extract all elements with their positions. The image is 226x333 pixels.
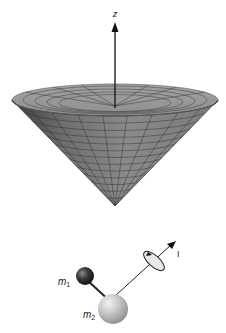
z-axis-arrowhead-icon bbox=[112, 22, 119, 32]
mass-1-sphere bbox=[76, 267, 94, 285]
mass-1-label: m1 bbox=[58, 276, 70, 288]
diatomic-molecule: I m1 m2 bbox=[58, 241, 180, 324]
cone-and-molecule-diagram: z I m1 m2 bbox=[0, 0, 226, 333]
mass-2-sphere bbox=[98, 294, 128, 324]
mass-2-label: m2 bbox=[83, 309, 95, 321]
angular-momentum-label: I bbox=[177, 249, 180, 259]
z-axis-label: z bbox=[112, 9, 118, 19]
